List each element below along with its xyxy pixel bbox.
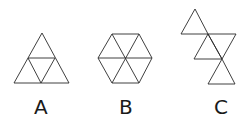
figure-c-label: C: [214, 97, 228, 117]
figure-c-zigzag-net: [181, 9, 236, 84]
figure-b-hexagon-net: [98, 34, 152, 83]
figure-b-label: B: [119, 97, 133, 117]
figure-a-triangle-net: [14, 33, 69, 83]
figure-a-label: A: [34, 97, 48, 117]
